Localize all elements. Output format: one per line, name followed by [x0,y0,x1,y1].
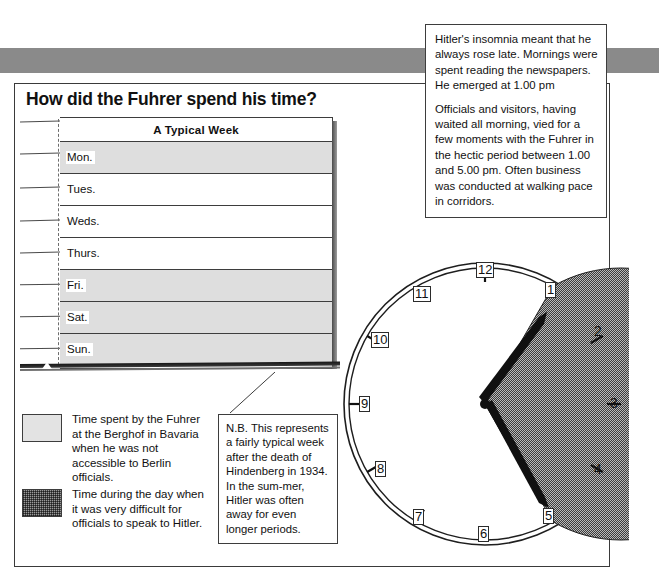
legend-swatch-light-grey-icon [22,414,62,442]
week-row: Fri. [60,269,332,301]
clock-number-8: 8 [375,461,386,477]
book-page-edge-line [20,284,60,286]
week-row: Sat. [60,301,332,333]
insomnia-callout-paragraph-2: Officials and visitors, having waited al… [435,102,598,210]
page-title: How did the Fuhrer spend his time? [26,89,356,110]
book-page-edge-line [20,348,60,350]
legend-item: Time during the day when it was very dif… [22,487,212,531]
week-row-day-label: Sat. [66,311,89,324]
nb-callout-leader-line [228,372,276,414]
clock-number-4: 4 [593,462,603,476]
clock-number-10: 10 [371,332,389,348]
nb-callout: N.B. This represents a fairly typical we… [218,414,338,544]
insomnia-callout: Hitler's insomnia meant that he always r… [425,24,607,218]
clock-number-5: 5 [543,508,554,524]
week-row-day-label: Fri. [66,279,86,292]
week-row-day-label: Weds. [66,215,101,228]
book-bookmark-notch [42,362,52,369]
clock-number-2: 2 [593,324,603,338]
week-row: Weds. [60,205,332,237]
clock-number-9: 9 [359,396,370,412]
book-page-edge-lines [20,117,60,367]
legend-swatch-hatched-grey-icon [22,489,62,517]
clock-number-7: 7 [413,509,424,525]
clock-number-1: 1 [545,282,556,298]
week-row-day-label: Thurs. [66,247,102,260]
legend-item-label: Time during the day when it was very dif… [72,487,212,531]
clock-number-11: 11 [413,286,431,302]
typical-week-table: A Typical Week Mon.Tues.Weds.Thurs.Fri.S… [60,117,333,369]
book-page-edge-line [20,152,60,154]
week-row: Mon. [60,141,332,173]
insomnia-callout-paragraph-1: Hitler's insomnia meant that he always r… [435,32,598,94]
legend-item-label: Time spent by the Fuhrer at the Berghof … [72,412,212,485]
week-row-day-label: Sun. [66,343,93,356]
week-row-list: Mon.Tues.Weds.Thurs.Fri.Sat.Sun. [60,141,332,365]
week-row: Thurs. [60,237,332,269]
book-page-edge-line [20,187,60,189]
book-page-edge-line [20,252,60,254]
typical-week-header: A Typical Week [60,118,332,136]
clock-number-12: 12 [476,262,494,278]
week-row-day-label: Tues. [66,183,97,196]
clock-number-3: 3 [609,396,619,410]
clock-face-svg [343,254,629,554]
book-page-edge-line [20,120,60,122]
book-page-edge-line [20,316,60,318]
week-row: Sun. [60,333,332,365]
book-bottom-edge [20,364,340,372]
clock-number-6: 6 [478,526,489,542]
legend: Time spent by the Fuhrer at the Berghof … [22,412,212,531]
legend-item: Time spent by the Fuhrer at the Berghof … [22,412,212,485]
week-row: Tues. [60,173,332,205]
book-gutter-dashed-line [58,119,59,365]
book-page-shadow [332,121,337,369]
clock-center-hub [480,399,490,409]
week-row-day-label: Mon. [66,151,95,164]
clock-diagram: 12 1 2 3 4 5 6 7 8 9 10 11 [343,254,629,554]
book-page-edge-line [20,220,60,222]
